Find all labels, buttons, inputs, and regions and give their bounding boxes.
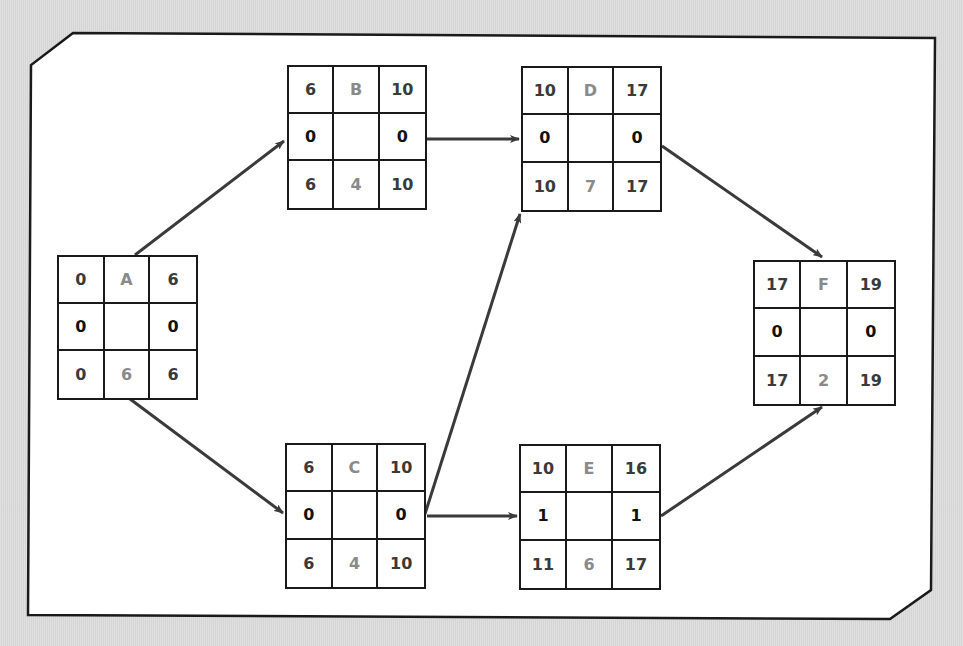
slack-left-cell: 1 [521, 493, 567, 540]
activity-node-b: 6B10006410 [287, 65, 427, 210]
latest-finish-cell: 10 [380, 161, 425, 208]
center-cell-cell [333, 492, 379, 539]
activity-label-cell: E [567, 446, 613, 493]
earliest-finish-cell: 6 [150, 257, 196, 304]
duration-cell: 7 [569, 163, 615, 210]
activity-node-a: 0A600066 [57, 255, 198, 400]
activity-label-cell: B [334, 67, 379, 114]
latest-start-cell: 17 [755, 357, 801, 404]
earliest-finish-cell: 10 [378, 445, 424, 492]
activity-node-e: 10E161111617 [519, 444, 661, 590]
earliest-finish-cell: 19 [848, 262, 894, 309]
slack-left-cell: 0 [289, 114, 334, 161]
activity-label-cell: F [801, 262, 847, 309]
center-cell-cell [569, 115, 615, 162]
center-cell-cell [105, 304, 151, 351]
duration-cell: 4 [333, 540, 379, 587]
center-cell-cell [334, 114, 379, 161]
latest-start-cell: 0 [59, 351, 105, 398]
latest-finish-cell: 6 [150, 351, 196, 398]
duration-cell: 6 [567, 541, 613, 588]
slack-right-cell: 0 [380, 114, 425, 161]
latest-start-cell: 6 [289, 161, 334, 208]
duration-cell: 4 [334, 161, 379, 208]
slack-right-cell: 0 [150, 304, 196, 351]
latest-start-cell: 6 [287, 540, 333, 587]
earliest-start-cell: 6 [289, 67, 334, 114]
earliest-start-cell: 10 [523, 68, 569, 115]
earliest-start-cell: 6 [287, 445, 333, 492]
slack-right-cell: 0 [378, 492, 424, 539]
center-cell-cell [567, 493, 613, 540]
activity-label-cell: D [569, 68, 615, 115]
activity-node-d: 10D170010717 [521, 66, 662, 212]
activity-node-c: 6C10006410 [285, 443, 426, 589]
latest-start-cell: 11 [521, 541, 567, 588]
latest-start-cell: 10 [523, 163, 569, 210]
slack-left-cell: 0 [59, 304, 105, 351]
slack-left-cell: 0 [755, 309, 801, 356]
activity-node-f: 17F190017219 [753, 260, 896, 406]
latest-finish-cell: 17 [614, 163, 660, 210]
earliest-start-cell: 17 [755, 262, 801, 309]
latest-finish-cell: 19 [848, 357, 894, 404]
latest-finish-cell: 10 [378, 540, 424, 587]
slack-left-cell: 0 [287, 492, 333, 539]
latest-finish-cell: 17 [613, 541, 659, 588]
slack-left-cell: 0 [523, 115, 569, 162]
earliest-finish-cell: 16 [613, 446, 659, 493]
center-cell-cell [801, 309, 847, 356]
earliest-finish-cell: 17 [614, 68, 660, 115]
activity-label-cell: A [105, 257, 151, 304]
earliest-finish-cell: 10 [380, 67, 425, 114]
duration-cell: 6 [105, 351, 151, 398]
activity-label-cell: C [333, 445, 379, 492]
duration-cell: 2 [801, 357, 847, 404]
slack-right-cell: 0 [614, 115, 660, 162]
slack-right-cell: 0 [848, 309, 894, 356]
earliest-start-cell: 0 [59, 257, 105, 304]
earliest-start-cell: 10 [521, 446, 567, 493]
slack-right-cell: 1 [613, 493, 659, 540]
